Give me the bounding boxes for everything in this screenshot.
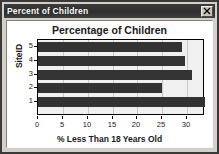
chart-title: Percentage of Children	[7, 24, 212, 36]
bar	[38, 56, 185, 66]
x-tick-mark	[37, 116, 38, 119]
x-tick-mark	[87, 116, 88, 119]
bar	[38, 97, 205, 107]
bar	[38, 42, 182, 52]
x-tick-label: 30	[176, 120, 196, 129]
y-tick-mark	[34, 87, 37, 88]
y-tick-mark	[34, 60, 37, 61]
y-tick-mark	[34, 46, 37, 47]
x-tick-mark	[186, 116, 187, 119]
x-tick-label: 20	[126, 120, 146, 129]
y-tick-mark	[34, 74, 37, 75]
x-tick-mark	[136, 116, 137, 119]
bar	[38, 83, 162, 93]
x-tick-label: 25	[151, 120, 171, 129]
close-icon[interactable]	[201, 6, 213, 17]
window-title: Percent of Children	[7, 4, 201, 18]
x-axis-title: % Less Than 18 Years Old	[7, 134, 212, 144]
y-tick-label: 2	[21, 83, 33, 91]
x-tick-mark	[112, 116, 113, 119]
y-tick-label: 5	[21, 42, 33, 50]
window-title-bar[interactable]: Percent of Children	[4, 4, 215, 18]
application-window: Percent of Children Percentage of Childr…	[0, 0, 219, 154]
y-tick-mark	[34, 101, 37, 102]
y-tick-label: 3	[21, 70, 33, 78]
y-tick-label: 4	[21, 56, 33, 64]
x-tick-label: 10	[77, 120, 97, 129]
x-tick-label: 0	[27, 120, 47, 129]
plot-area	[37, 39, 204, 115]
bar-chart: Percentage of Children SiteID 1234505101…	[7, 21, 212, 147]
window-client-area: Percentage of Children SiteID 1234505101…	[6, 20, 213, 148]
bar	[38, 70, 192, 80]
x-tick-label: 15	[102, 120, 122, 129]
x-tick-mark	[161, 116, 162, 119]
y-tick-label: 1	[21, 97, 33, 105]
x-tick-mark	[62, 116, 63, 119]
bars-layer	[38, 40, 203, 114]
x-tick-label: 5	[52, 120, 72, 129]
